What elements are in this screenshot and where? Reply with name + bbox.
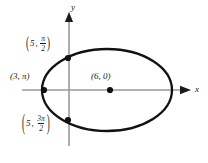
x-axis-label: x: [195, 85, 199, 94]
fraction-denominator: 2: [38, 123, 44, 132]
y-axis-label: y: [71, 3, 75, 12]
point-top: [65, 55, 71, 61]
point-label-left: (3, π): [10, 72, 30, 81]
fraction-numerator: π: [40, 35, 46, 43]
point-label-bottom: ( 5 , 3π 2 ): [22, 115, 50, 132]
x-axis-arrowhead: [180, 86, 191, 94]
point-center: [107, 87, 113, 93]
plot-canvas: [0, 0, 208, 163]
close-paren: ): [47, 112, 50, 135]
point-label-top: ( 5 , π 2 ): [26, 35, 50, 52]
open-paren: (: [22, 112, 25, 135]
fraction-numerator: 3π: [36, 115, 46, 123]
theta-fraction: π 2: [39, 35, 47, 52]
theta-fraction: 3π 2: [35, 115, 47, 132]
fraction-denominator: 2: [40, 43, 46, 52]
open-paren: (: [26, 35, 29, 52]
point-left: [41, 87, 47, 93]
y-axis-arrowhead: [65, 12, 73, 22]
polar-graph-figure: y x ( 5 , π 2 ) (3, π) (6, 0) ( 5 , 3π 2…: [0, 0, 208, 163]
close-paren: ): [47, 35, 50, 52]
point-bottom: [65, 117, 71, 123]
point-label-center: (6, 0): [91, 72, 111, 81]
